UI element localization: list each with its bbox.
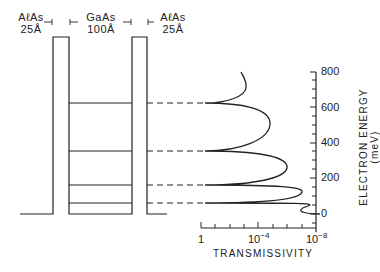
y-axis-title: ELECTRON ENERGY (meV) [358, 72, 380, 222]
x-tick-1e-4: 10−4 [248, 231, 269, 245]
transmission-curve [205, 72, 320, 214]
left-barrier-material: AℓAs [14, 11, 48, 23]
right-barrier-width: 25Å [156, 23, 190, 35]
potential-profile [20, 37, 167, 214]
y-tick-0: 0 [321, 207, 327, 219]
y-tick-600: 600 [321, 101, 339, 113]
y-tick-400: 400 [321, 136, 339, 148]
right-barrier-label: AℓAs 25Å [156, 11, 190, 35]
y-tick-200: 200 [321, 171, 339, 183]
well-width: 100Å [80, 23, 122, 35]
x-tick-1: 1 [198, 233, 204, 245]
right-barrier-material: AℓAs [156, 11, 190, 23]
x-tick-1e-8: 10−8 [306, 231, 327, 245]
well-label: GaAs 100Å [80, 11, 122, 35]
well-material: GaAs [80, 11, 122, 23]
left-barrier-label: AℓAs 25Å [14, 11, 48, 35]
x-axis-title: TRANSMISSIVITY [213, 248, 313, 259]
y-tick-800: 800 [321, 65, 339, 77]
left-barrier-width: 25Å [14, 23, 48, 35]
